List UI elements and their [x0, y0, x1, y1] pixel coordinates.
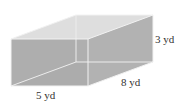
depth-label: 8 yd: [121, 76, 141, 88]
length-label: 5 yd: [36, 89, 56, 101]
prism-diagram: 3 yd 8 yd 5 yd: [0, 0, 177, 108]
height-label: 3 yd: [155, 33, 175, 45]
